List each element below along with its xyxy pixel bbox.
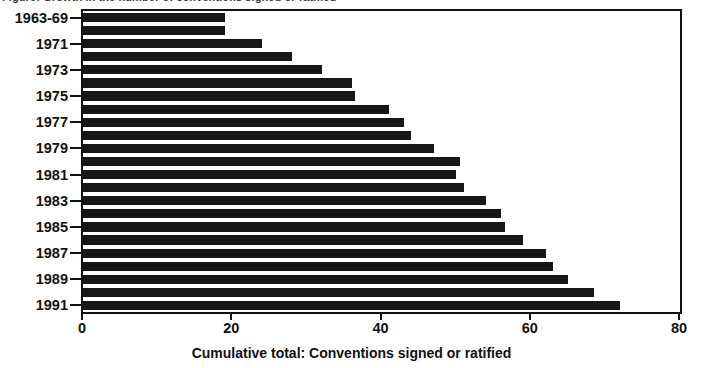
x-axis-tick-label: 20 bbox=[223, 320, 239, 336]
y-axis-tick bbox=[70, 121, 81, 123]
y-axis-labels: 1963-69197119731975197719791981198319851… bbox=[0, 0, 68, 368]
y-axis-tick bbox=[70, 200, 81, 202]
bar bbox=[83, 65, 322, 74]
bar bbox=[83, 78, 352, 87]
bar-row bbox=[83, 222, 680, 231]
bar-row bbox=[83, 52, 680, 61]
y-axis-tick-label: 1963-69 bbox=[2, 11, 68, 26]
bar bbox=[83, 275, 568, 284]
bar bbox=[83, 131, 411, 140]
y-axis-tick bbox=[70, 95, 81, 97]
y-axis-tick-label: 1977 bbox=[2, 115, 68, 130]
bar-row bbox=[83, 288, 680, 297]
y-axis-tick bbox=[70, 147, 81, 149]
bar bbox=[83, 262, 553, 271]
bar-row bbox=[83, 144, 680, 153]
y-axis-tick-label: 1989 bbox=[2, 272, 68, 287]
y-axis-tick-label: 1971 bbox=[2, 37, 68, 52]
y-axis-tick bbox=[70, 278, 81, 280]
bar-row bbox=[83, 65, 680, 74]
bar-row bbox=[83, 235, 680, 244]
x-axis-tick-label: 80 bbox=[671, 320, 687, 336]
y-axis-tick bbox=[70, 304, 81, 306]
bar bbox=[83, 144, 434, 153]
bar-row bbox=[83, 105, 680, 114]
bar bbox=[83, 209, 501, 218]
bar-row bbox=[83, 196, 680, 205]
bar-row bbox=[83, 183, 680, 192]
y-axis-tick bbox=[70, 252, 81, 254]
y-axis-tick bbox=[70, 17, 81, 19]
bar bbox=[83, 91, 355, 100]
bar-row bbox=[83, 262, 680, 271]
bar-row bbox=[83, 249, 680, 258]
x-axis-title: Cumulative total: Conventions signed or … bbox=[0, 345, 703, 361]
bar-row bbox=[83, 170, 680, 179]
bar-row bbox=[83, 26, 680, 35]
bar bbox=[83, 13, 225, 22]
bar-row bbox=[83, 131, 680, 140]
bar bbox=[83, 196, 486, 205]
bar bbox=[83, 301, 620, 310]
bar bbox=[83, 157, 460, 166]
bar-row bbox=[83, 78, 680, 87]
bars-layer bbox=[83, 11, 680, 312]
y-axis-tick-label: 1987 bbox=[2, 246, 68, 261]
y-axis-tick-label: 1975 bbox=[2, 89, 68, 104]
bar-row bbox=[83, 157, 680, 166]
bar-row bbox=[83, 275, 680, 284]
y-axis-tick bbox=[70, 43, 81, 45]
bar bbox=[83, 183, 464, 192]
bar-row bbox=[83, 209, 680, 218]
y-axis-tick-label: 1983 bbox=[2, 194, 68, 209]
bar-row bbox=[83, 13, 680, 22]
bar bbox=[83, 288, 594, 297]
y-axis-tick-label: 1979 bbox=[2, 141, 68, 156]
bar bbox=[83, 52, 292, 61]
bar-chart: 1963-69197119731975197719791981198319851… bbox=[0, 0, 703, 368]
x-axis-tick-label: 60 bbox=[522, 320, 538, 336]
bar-row bbox=[83, 118, 680, 127]
bar bbox=[83, 170, 456, 179]
x-axis-tick-label: 0 bbox=[78, 320, 86, 336]
bar bbox=[83, 249, 546, 258]
bar-row bbox=[83, 91, 680, 100]
bar bbox=[83, 105, 389, 114]
bar bbox=[83, 26, 225, 35]
bar-row bbox=[83, 39, 680, 48]
y-axis-tick bbox=[70, 226, 81, 228]
y-axis-tick bbox=[70, 69, 81, 71]
bar bbox=[83, 39, 262, 48]
bar bbox=[83, 222, 505, 231]
y-axis-tick-label: 1985 bbox=[2, 220, 68, 235]
y-axis-tick bbox=[70, 174, 81, 176]
bar bbox=[83, 235, 523, 244]
x-axis-tick-label: 40 bbox=[372, 320, 388, 336]
y-axis-tick-label: 1981 bbox=[2, 168, 68, 183]
bar bbox=[83, 118, 404, 127]
y-axis-tick-label: 1991 bbox=[2, 298, 68, 313]
bar-row bbox=[83, 301, 680, 310]
y-axis-tick-label: 1973 bbox=[2, 63, 68, 78]
